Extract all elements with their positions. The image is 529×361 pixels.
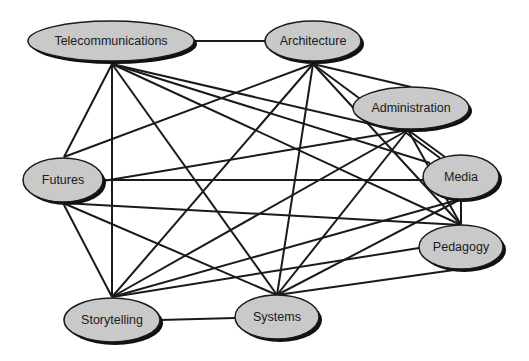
node-label: Systems (253, 310, 301, 324)
node-label: Telecommunications (54, 34, 167, 48)
node-storytelling[interactable]: Storytelling (64, 298, 163, 345)
edge-pedagogy-systems (277, 269, 461, 295)
nodes-layer: TelecommunicationsArchitectureAdministra… (23, 21, 506, 345)
edge-architecture-futures (64, 64, 313, 157)
node-label: Storytelling (81, 313, 143, 327)
node-futures[interactable]: Futures (23, 158, 106, 205)
node-label: Futures (42, 173, 84, 187)
node-pedagogy[interactable]: Pedagogy (419, 225, 506, 272)
edge-administration-systems (277, 130, 408, 295)
edge-telecommunications-futures (64, 64, 112, 157)
node-label: Administration (371, 101, 450, 115)
node-label: Architecture (280, 34, 347, 48)
node-administration[interactable]: Administration (353, 87, 472, 132)
edge-futures-pedagogy (63, 203, 461, 225)
edge-futures-storytelling (63, 203, 112, 297)
node-architecture[interactable]: Architecture (265, 21, 364, 64)
node-label: Pedagogy (433, 240, 490, 254)
edge-storytelling-systems (160, 318, 235, 320)
edge-administration-media (408, 130, 445, 157)
node-telecommunications[interactable]: Telecommunications (28, 21, 197, 64)
edge-telecommunications-administration (112, 64, 375, 125)
edges-layer (63, 41, 461, 320)
node-media[interactable]: Media (423, 155, 502, 202)
node-systems[interactable]: Systems (235, 295, 322, 342)
node-label: Media (444, 170, 478, 184)
network-diagram: TelecommunicationsArchitectureAdministra… (0, 0, 529, 361)
